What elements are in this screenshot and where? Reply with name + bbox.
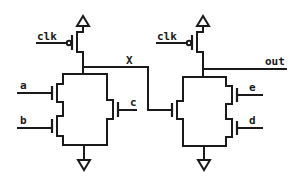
vdd-triangle-icon [197, 16, 209, 26]
schematic-canvas: clk X a [0, 0, 304, 184]
node-x-label: X [126, 54, 133, 67]
vdd-symbol-1 [77, 16, 89, 32]
node-x-wire: X [83, 54, 170, 110]
vdd-symbol-2 [197, 16, 209, 32]
input-d-label: d [249, 114, 256, 127]
nmos-x [172, 77, 183, 146]
stage-1: clk X a [18, 16, 170, 170]
out-wire: out [203, 55, 286, 69]
input-b-label: b [20, 114, 27, 127]
input-a-label: a [20, 79, 27, 92]
pmos-bubble-icon [67, 41, 71, 45]
clk-input-label: clk [157, 30, 177, 43]
pmos-bubble-icon [187, 41, 191, 45]
gnd-symbol-1 [78, 145, 90, 170]
nmos-d: d [226, 114, 262, 146]
ground-triangle-icon [198, 160, 210, 170]
clk-input-label: clk [37, 30, 57, 43]
input-e-label: e [249, 81, 256, 94]
ground-triangle-icon [78, 160, 90, 170]
clk-label-1: clk [37, 30, 57, 43]
nmos-a: a [18, 74, 63, 116]
nmos-c: c [107, 74, 137, 145]
output-label: out [265, 55, 285, 68]
gnd-symbol-2 [198, 146, 210, 170]
input-c-label: c [130, 96, 137, 109]
stage-2: clk out e [157, 16, 286, 170]
circuit-schematic: clk X a [0, 0, 304, 184]
vdd-triangle-icon [77, 16, 89, 26]
nmos-b: b [18, 114, 63, 145]
nmos-e: e [226, 77, 262, 119]
